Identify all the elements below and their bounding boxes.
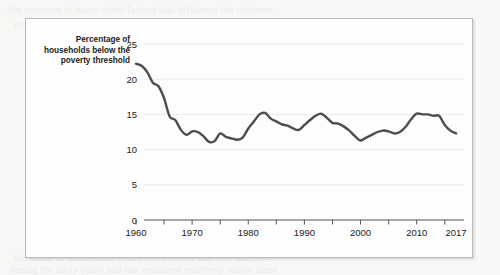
svg-text:25: 25	[126, 39, 137, 50]
svg-text:20: 20	[126, 74, 137, 85]
background-text-line-a: the presence of many other factors that …	[8, 4, 273, 15]
figure-page: the presence of many other factors that …	[0, 0, 500, 275]
y-axis-tick-labels: 0510152025	[126, 39, 137, 226]
background-text-line-f: during the early years and has remained …	[10, 264, 277, 275]
svg-text:2010: 2010	[406, 227, 427, 238]
chart-frame: Percentage of households below the pover…	[25, 18, 473, 258]
svg-text:1970: 1970	[182, 227, 203, 238]
svg-text:15: 15	[126, 109, 137, 120]
svg-text:2000: 2000	[350, 227, 371, 238]
svg-text:5: 5	[132, 179, 137, 190]
svg-text:10: 10	[126, 144, 137, 155]
svg-text:1980: 1980	[238, 227, 259, 238]
poverty-rate-line	[136, 64, 456, 143]
svg-text:1960: 1960	[125, 227, 146, 238]
x-axis	[136, 220, 464, 225]
svg-text:1990: 1990	[294, 227, 315, 238]
x-axis-tick-labels: 1960197019801990200020102017	[125, 227, 466, 238]
poverty-rate-line-chart: 0510152025 1960197019801990200020102017	[26, 19, 474, 259]
svg-text:2017: 2017	[445, 227, 466, 238]
